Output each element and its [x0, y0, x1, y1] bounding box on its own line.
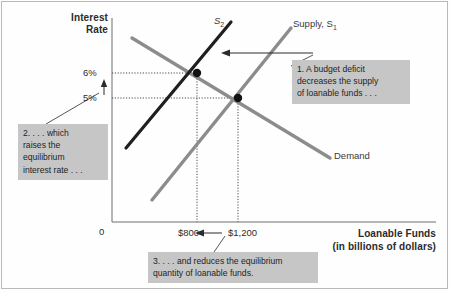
- x-axis-subtitle: (in billions of dollars): [306, 241, 436, 253]
- equilibrium-point-new: [193, 69, 201, 77]
- curve-label-s2: S2: [214, 15, 224, 29]
- curve-label-supply-s1-text: Supply, S: [293, 18, 333, 29]
- x-tick-label-1200: $1,200: [228, 227, 257, 238]
- curve-label-supply-s1-sub: 1: [333, 24, 337, 31]
- x-tick-label-800: $800: [178, 227, 199, 238]
- y-axis-title-line1: Interest: [63, 12, 108, 24]
- callout-interest-rate: 2. . . . which raises the equilibrium in…: [18, 124, 108, 180]
- supply-shift-arrow-head: [221, 50, 230, 57]
- y-tick-label-6-percent: 6%: [83, 67, 97, 78]
- axis-origin-label: 0: [99, 226, 104, 237]
- interest-rate-arrow-head: [101, 79, 107, 87]
- callout-quantity: 3. . . . and reduces the equilibrium qua…: [148, 252, 318, 283]
- curve-label-demand: Demand: [334, 150, 370, 161]
- supply-curve-s1: [152, 28, 291, 200]
- callout-3-leader-line: [214, 236, 225, 252]
- y-tick-label-5-percent: 5%: [83, 92, 97, 103]
- loanable-funds-diagram: Interest Rate Loanable Funds (in billion…: [0, 0, 451, 292]
- x-axis-title: Loanable Funds: [316, 228, 436, 240]
- callout-budget-deficit: 1. A budget deficit decreases the supply…: [292, 60, 410, 104]
- equilibrium-point-old: [234, 94, 242, 102]
- supply-curve-s2: [126, 22, 231, 148]
- y-axis-title-line2: Rate: [63, 24, 108, 36]
- curve-label-s2-sub: 2: [220, 21, 224, 28]
- curve-label-supply-s1: Supply, S1: [293, 18, 337, 32]
